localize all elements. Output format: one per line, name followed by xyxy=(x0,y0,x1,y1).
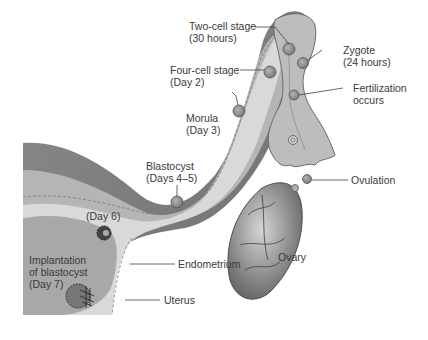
label-text: Two-cell stage xyxy=(189,20,256,32)
zygote-cell xyxy=(298,58,309,69)
label-text: (Days 4–5) xyxy=(146,172,197,184)
label-morula: Morula (Day 3) xyxy=(186,112,220,136)
label-zygote: Zygote (24 hours) xyxy=(343,44,391,68)
label-endometrium: Endometrium xyxy=(178,258,240,270)
label-text: (Day 6) xyxy=(86,210,120,222)
label-text: Ovary xyxy=(278,251,306,263)
label-text: Zygote xyxy=(343,44,391,56)
label-blastocyst: Blastocyst (Days 4–5) xyxy=(146,160,197,184)
label-text: Morula xyxy=(186,112,220,124)
two-cell-stage-cell xyxy=(283,43,295,55)
label-text: Fertilization xyxy=(353,82,407,94)
four-cell-stage-cell xyxy=(264,66,276,78)
label-text: Ovulation xyxy=(351,174,395,186)
label-text: Endometrium xyxy=(178,258,240,270)
ovulation-egg xyxy=(303,175,312,184)
label-text: of blastocyst xyxy=(29,266,87,278)
label-implantation: Implantation of blastocyst (Day 7) xyxy=(29,254,87,290)
label-day6: (Day 6) xyxy=(86,210,120,222)
label-text: Four-cell stage xyxy=(170,64,239,76)
label-text: (Day 3) xyxy=(186,124,220,136)
label-text: (24 hours) xyxy=(343,56,391,68)
label-text: (Day 7) xyxy=(29,278,87,290)
blastocyst-cell xyxy=(171,196,183,208)
ovary xyxy=(228,183,302,299)
label-fertilization: Fertilization occurs xyxy=(353,82,407,106)
fertilization-cell xyxy=(289,90,299,100)
morula-cell xyxy=(233,105,245,117)
ovary-follicle xyxy=(292,185,299,192)
label-text: (30 hours) xyxy=(189,32,256,44)
label-four-cell-stage: Four-cell stage (Day 2) xyxy=(170,64,239,88)
label-text: occurs xyxy=(353,94,407,106)
label-text: Implantation xyxy=(29,254,87,266)
label-ovary: Ovary xyxy=(278,251,306,263)
label-ovulation: Ovulation xyxy=(351,174,395,186)
ovulating-egg-in-tube xyxy=(289,136,298,145)
label-uterus: Uterus xyxy=(164,294,195,306)
label-text: (Day 2) xyxy=(170,76,239,88)
label-text: Blastocyst xyxy=(146,160,197,172)
label-two-cell-stage: Two-cell stage (30 hours) xyxy=(189,20,256,44)
label-text: Uterus xyxy=(164,294,195,306)
